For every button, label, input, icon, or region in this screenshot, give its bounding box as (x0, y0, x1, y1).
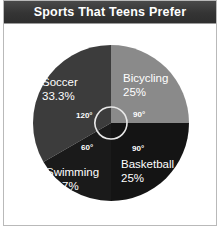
angle-label-bicycling: 90° (133, 110, 145, 119)
slice-label-swimming: Swimming (46, 166, 99, 178)
slice-label-soccer: Soccer (42, 76, 78, 88)
angle-label-basketball: 90° (132, 144, 144, 153)
pie-svg: 120° 90° 90° 60° Soccer 33.3% Bicycling … (4, 24, 216, 226)
figure-frame: Sports That Teens Prefer 120° 90° (3, 0, 217, 226)
angle-label-soccer: 120° (76, 111, 93, 120)
angle-label-swimming: 60° (81, 143, 93, 152)
slice-percent-basketball: 25% (121, 172, 144, 184)
chart-title-bar: Sports That Teens Prefer (4, 1, 216, 24)
pie-chart-figure: Sports That Teens Prefer 120° 90° (0, 0, 220, 232)
chart-title: Sports That Teens Prefer (34, 5, 187, 19)
chart-plot-area: 120° 90° 90° 60° Soccer 33.3% Bicycling … (4, 24, 216, 225)
slice-percent-soccer: 33.3% (42, 90, 75, 102)
slice-percent-bicycling: 25% (123, 86, 146, 98)
slice-label-basketball: Basketball (121, 158, 174, 170)
slice-label-bicycling: Bicycling (123, 72, 168, 84)
slice-percent-swimming: 16.7% (46, 180, 79, 192)
